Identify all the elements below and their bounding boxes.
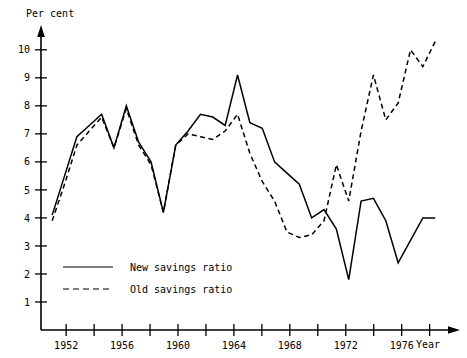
y-axis-tick-label: 1 — [24, 297, 30, 308]
series-line-old-savings-ratio — [52, 41, 435, 237]
y-axis-tick-label: 9 — [24, 72, 30, 83]
y-axis-tick-label: 2 — [24, 269, 30, 280]
data-series-group — [52, 41, 435, 279]
x-axis-arrowhead — [448, 326, 460, 334]
legend-label-new-savings-ratio: New savings ratio — [130, 262, 232, 273]
y-axis-tick-label: 10 — [18, 44, 30, 55]
y-axis-tick-label: 6 — [24, 156, 30, 167]
x-axis-tick-label: 1952 — [54, 340, 78, 351]
y-axis-tick-label: 8 — [24, 100, 30, 111]
y-axis-tick-label: 4 — [24, 213, 30, 224]
y-axis-tick-label: 5 — [24, 185, 30, 196]
y-axis-tick-label: 3 — [24, 241, 30, 252]
savings-ratio-line-chart: 12345678910 1952195619601964196819721976… — [0, 0, 467, 358]
x-axis-tick-label: 1976 — [390, 340, 414, 351]
x-axis-title: Year — [416, 339, 440, 350]
legend-label-old-savings-ratio: Old savings ratio — [130, 284, 232, 295]
x-axis-tick-label: 1972 — [334, 340, 358, 351]
series-line-new-savings-ratio — [52, 75, 435, 280]
y-axis-tick-labels: 12345678910 — [18, 44, 30, 307]
y-axis-title: Per cent — [26, 8, 74, 19]
y-axis-arrowhead — [37, 25, 45, 37]
x-axis-tick-label: 1960 — [166, 340, 190, 351]
y-axis-tick-label: 7 — [24, 128, 30, 139]
x-axis-tick-label: 1968 — [278, 340, 302, 351]
x-axis-tick-label: 1964 — [222, 340, 246, 351]
x-axis-tick-label: 1956 — [110, 340, 134, 351]
chart-legend: New savings ratio Old savings ratio — [63, 262, 232, 295]
chart-canvas: 12345678910 1952195619601964196819721976… — [0, 0, 467, 358]
x-axis-tick-labels: 1952195619601964196819721976 — [54, 340, 414, 351]
